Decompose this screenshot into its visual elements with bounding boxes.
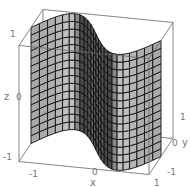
- surface-patch: [117, 163, 123, 171]
- surface-patch: [117, 124, 123, 132]
- surface-patch: [117, 70, 123, 78]
- x-axis-label: x: [90, 177, 96, 187]
- surface-patch: [75, 14, 80, 23]
- surface-patch: [129, 51, 136, 61]
- surface-patch: [117, 147, 123, 155]
- surface-patch: [69, 76, 75, 84]
- z-tick-0: 0: [16, 92, 22, 102]
- surface-patch: [69, 122, 75, 130]
- surface-patch: [69, 106, 75, 114]
- y-tick-1: 1: [180, 112, 186, 122]
- surface-patch: [117, 62, 123, 70]
- surface-patch: [69, 14, 75, 22]
- x-tick-0: 0: [92, 167, 98, 177]
- surface-patch: [69, 68, 75, 76]
- y-tick-neg1: -1: [167, 167, 176, 177]
- surface-patch: [69, 91, 75, 99]
- surface-patch: [55, 15, 62, 25]
- surface-patch: [117, 116, 123, 124]
- surface-patch: [69, 114, 75, 122]
- surface-patch: [123, 53, 130, 62]
- x-tick-neg1: -1: [29, 169, 38, 179]
- surface-patch: [108, 51, 112, 61]
- surface-patch: [117, 78, 123, 86]
- surface-patch: [117, 85, 123, 93]
- z-tick-neg1: -1: [3, 152, 12, 162]
- surface-patch: [117, 93, 123, 101]
- z-tick-1: 1: [10, 29, 16, 39]
- surface-patch: [63, 14, 70, 23]
- y-tick-0: 0: [172, 138, 178, 148]
- surface-patch: [117, 101, 123, 109]
- y-axis-label: y: [182, 137, 188, 148]
- surface-patch: [117, 139, 123, 147]
- surface-patch: [117, 155, 123, 163]
- surface-patch: [69, 52, 75, 60]
- surface-plot: 1 0 z -1 -1 0 x 1 -1 0 y 1: [0, 0, 191, 187]
- surface-patch: [69, 29, 75, 37]
- surface-patch: [117, 108, 123, 116]
- x-tick-1: 1: [154, 178, 160, 187]
- z-axis-label: z: [4, 91, 9, 102]
- surface-patch: [117, 132, 123, 140]
- surface-patch: [69, 99, 75, 107]
- surface-patch: [69, 83, 75, 91]
- surface-patch: [69, 37, 75, 45]
- surface-patch: [69, 21, 75, 29]
- surface-patch: [80, 15, 84, 25]
- surface-patch: [69, 60, 75, 68]
